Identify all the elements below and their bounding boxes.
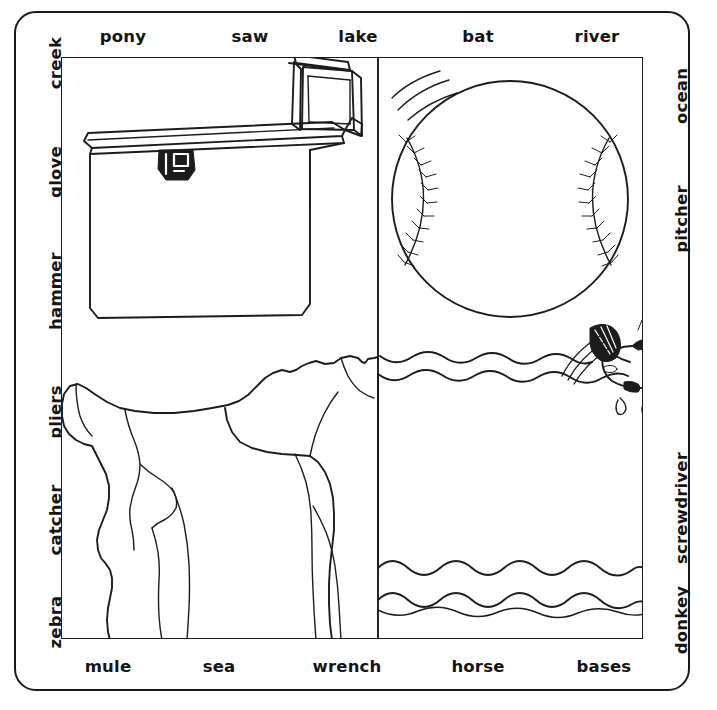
label-bottom-1: sea: [203, 657, 236, 676]
label-right-0: ocean: [672, 68, 691, 124]
label-top-2: lake: [338, 27, 377, 46]
label-bottom-4: bases: [577, 657, 632, 676]
puzzle-page: pony saw lake bat river mule sea wrench …: [0, 0, 717, 710]
horse-illustration: [62, 356, 378, 639]
label-right-3: donkey: [672, 586, 691, 655]
fish-illustration: [562, 320, 643, 416]
label-bottom-2: wrench: [312, 657, 381, 676]
label-top-4: river: [575, 27, 620, 46]
baseball-stitches-left: [398, 135, 438, 266]
baseball-motion-lines: [392, 71, 457, 120]
label-top-0: pony: [100, 27, 146, 46]
label-right-1: pitcher: [672, 185, 691, 253]
puzzle-artwork: [62, 58, 643, 639]
toolbox-illustration: [84, 57, 362, 318]
label-top-1: saw: [232, 27, 269, 46]
label-right-2: screwdriver: [672, 452, 691, 564]
baseball-stitches-right: [578, 135, 618, 266]
toolbox-latch: [158, 150, 195, 180]
baseball-illustration: [392, 71, 628, 317]
label-bottom-3: horse: [451, 657, 504, 676]
water-illustration: [378, 320, 643, 618]
label-top-3: bat: [462, 27, 493, 46]
puzzle-grid: [61, 57, 643, 639]
label-bottom-0: mule: [85, 657, 132, 676]
